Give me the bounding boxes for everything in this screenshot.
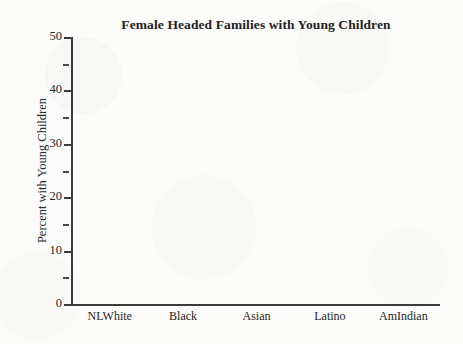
y-tick-mark (64, 304, 71, 306)
y-tick-label: 40 (50, 82, 63, 97)
y-tick-label: 20 (50, 189, 63, 204)
x-axis-line (71, 304, 440, 306)
y-tick-label: 10 (50, 243, 63, 258)
y-tick-major: 10 (0, 251, 71, 253)
y-tick-label: 0 (56, 296, 62, 311)
y-tick-minor (0, 64, 71, 66)
y-tick-mark (64, 144, 71, 146)
y-tick-label: 50 (50, 29, 63, 44)
y-tick-minor (0, 171, 71, 173)
y-tick-major: 20 (0, 197, 71, 199)
y-tick-mark (63, 64, 69, 66)
chart-screenshot: Female Headed Families with Young Childr… (0, 0, 463, 344)
y-tick-mark (63, 171, 69, 173)
y-tick-minor (0, 277, 71, 279)
x-axis-category-label: Latino (314, 309, 345, 324)
plot-area (73, 37, 440, 304)
y-tick-mark (64, 90, 71, 92)
y-tick-mark (63, 224, 69, 226)
x-axis-category-label: Asian (243, 309, 271, 324)
y-tick-minor (0, 117, 71, 119)
y-tick-mark (64, 197, 71, 199)
y-tick-major: 30 (0, 144, 71, 146)
y-tick-major: 0 (0, 304, 71, 306)
y-tick-mark (63, 117, 69, 119)
y-tick-label: 30 (50, 136, 63, 151)
y-tick-major: 50 (0, 37, 71, 39)
y-tick-mark (64, 251, 71, 253)
chart-title: Female Headed Families with Young Childr… (72, 17, 440, 33)
x-axis-category-label: Black (169, 309, 197, 324)
y-tick-mark (64, 37, 71, 39)
x-axis-category-label: AmIndian (379, 309, 428, 324)
y-tick-major: 40 (0, 90, 71, 92)
y-tick-minor (0, 224, 71, 226)
y-tick-mark (63, 277, 69, 279)
x-axis-category-label: NLWhite (87, 309, 131, 324)
